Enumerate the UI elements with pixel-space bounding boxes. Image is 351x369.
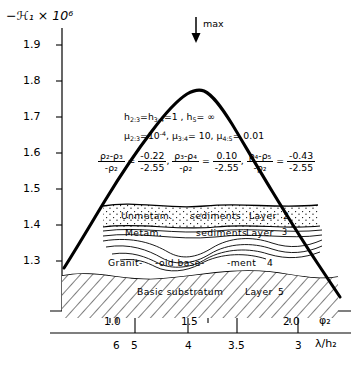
eq-2: =: [202, 155, 210, 166]
geology-label-5-left: Basic substratum: [137, 287, 223, 296]
density-value-1: -0.22 -2.55: [138, 150, 166, 173]
geology-label-3-num: 3: [282, 229, 288, 237]
sep-2: ,: [241, 155, 244, 166]
y-axis-label-text: −ℋ₁ × 10⁶: [6, 8, 73, 23]
geology-label-4-left: Granit-: [108, 258, 143, 267]
param-line-h: h2:3=h3:4=1 , h5= ∞: [124, 112, 215, 123]
geology-label-2-num: 2: [283, 211, 289, 220]
density-fraction-2: ρ₃-ρ₄ -ρ₂: [172, 150, 199, 173]
geology-label-3-left: Metam.: [125, 228, 162, 237]
geology-label-5-right: Layer: [245, 287, 273, 296]
x-bottom-tick-label-1: 6: [113, 340, 120, 351]
max-arrow-icon: [192, 17, 201, 43]
y-tick-label-5: 1.5: [23, 183, 41, 194]
param-line-mu: μ2:3=10-4, μ3:4= 10, μ4:5= 0.01: [124, 131, 264, 142]
x-axis-top-label: φ₂: [319, 315, 331, 326]
x-axis-bottom-label: λ/h₂: [315, 338, 337, 349]
geology-label-4-right: -ment: [227, 258, 256, 267]
eq-3: =: [276, 155, 284, 166]
chart-canvas: [0, 0, 351, 369]
x-bottom-tick-label-3: 4: [185, 340, 192, 351]
geology-label-4-mid: -oid base-: [155, 258, 205, 267]
y-tick-label-1: 1.9: [23, 39, 41, 50]
param-line-density-ratios: ρ₂-ρ₃ -ρ₂ = -0.22 -2.55 , ρ₃-ρ₄ -ρ₂ = 0.…: [98, 150, 315, 173]
y-axis-ticks: [56, 45, 62, 261]
y-axis-label: −ℋ₁ × 10⁶: [6, 10, 73, 23]
density-fraction-1: ρ₂-ρ₃ -ρ₂: [98, 150, 125, 173]
y-tick-label-7: 1.3: [23, 255, 41, 266]
geology-label-3-mid: sediments: [196, 228, 247, 237]
y-tick-label-3: 1.7: [23, 111, 41, 122]
geology-label-2-left: Unmetam.: [121, 211, 172, 220]
geology-label-2-mid: sediments: [190, 211, 241, 220]
density-value-3: -0.43 -2.55: [287, 150, 315, 173]
x-bottom-tick-label-2: 5: [131, 340, 138, 351]
geology-label-3-right: Layer: [246, 228, 274, 237]
geology-label-2-right: Layer: [249, 211, 277, 220]
x-top-tick-label-2: 1.5: [181, 316, 198, 327]
sep-1: ,: [166, 155, 169, 166]
geology-label-4-num: 4: [267, 258, 273, 267]
x-bottom-tick-label-4: 3.5: [228, 340, 245, 351]
x-bottom-tick-label-5: 3: [295, 340, 302, 351]
figure-root: −ℋ₁ × 10⁶ 1.9 1.8 1.7 1.6 1.5 1.4 1.3 ma…: [0, 0, 351, 369]
density-fraction-3: ρ₄-ρ₅ -ρ₂: [247, 150, 274, 173]
density-value-2: 0.10 -2.55: [213, 150, 241, 173]
y-tick-label-2: 1.8: [23, 75, 41, 86]
x-top-tick-label-3: 2.0: [283, 316, 300, 327]
max-label: max: [203, 19, 224, 29]
x-top-tick-label-1: 1.0: [104, 316, 121, 327]
geology-label-5-num: 5: [278, 287, 284, 296]
eq-1: =: [128, 155, 136, 166]
y-tick-label-6: 1.4: [23, 219, 41, 230]
y-tick-label-4: 1.6: [23, 147, 41, 158]
